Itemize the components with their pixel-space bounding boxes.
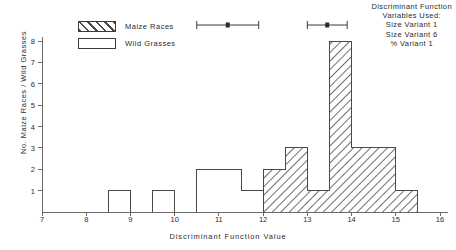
histogram-chart: Maize Races Wild Grasses Discriminant Fu…: [0, 0, 456, 250]
x-tick-8: 8: [84, 215, 88, 224]
x-tick-7: 7: [40, 215, 44, 224]
y-tick-3: 3: [31, 143, 35, 152]
x-axis-label: Discriminant Function Value: [0, 232, 456, 241]
y-tick-5: 5: [31, 101, 35, 110]
note-line-1: Discriminant Function: [371, 2, 452, 11]
y-tick-8: 8: [31, 37, 35, 46]
y-tick-1: 1: [31, 186, 35, 195]
maize-races-range: [307, 21, 347, 29]
note-line-2: Variables Used:: [371, 11, 452, 20]
x-tick-9: 9: [128, 215, 132, 224]
y-tick-4: 4: [31, 122, 35, 131]
discriminant-function-note: Discriminant Function Variables Used: Si…: [371, 2, 452, 48]
plot-layer: [108, 41, 418, 212]
x-tick-14: 14: [347, 215, 355, 224]
x-tick-10: 10: [170, 215, 178, 224]
y-tick-7: 7: [31, 58, 35, 67]
y-tick-2: 2: [31, 165, 35, 174]
x-tick-16: 16: [436, 215, 444, 224]
x-tick-13: 13: [303, 215, 311, 224]
legend-item-maize-races: Maize Races: [78, 18, 176, 35]
legend-swatch-wild-grasses: [78, 38, 116, 49]
wild-grasses-range: [197, 21, 259, 29]
legend-item-wild-grasses: Wild Grasses: [78, 35, 176, 52]
chart-legend: Maize Races Wild Grasses: [78, 18, 176, 52]
note-line-5: % Variant 1: [371, 39, 452, 48]
range-markers: [197, 21, 347, 29]
legend-label-wild-grasses: Wild Grasses: [125, 39, 176, 48]
x-tick-11: 11: [215, 215, 223, 224]
note-line-3: Size Variant 1: [371, 20, 452, 29]
legend-swatch-maize-races: [78, 21, 116, 32]
series-maize-races: [263, 41, 418, 212]
y-axis-label: No. Maize Races / Wild Grasses: [19, 18, 28, 168]
x-tick-15: 15: [392, 215, 400, 224]
y-tick-6: 6: [31, 79, 35, 88]
legend-label-maize-races: Maize Races: [125, 22, 174, 31]
note-line-4: Size Variant 6: [371, 30, 452, 39]
x-tick-12: 12: [259, 215, 267, 224]
